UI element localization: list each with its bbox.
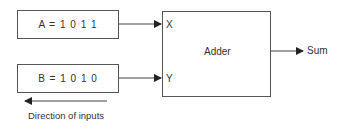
input-b-label: B = 1 0 1 0 bbox=[38, 73, 98, 84]
sum-label: Sum bbox=[307, 45, 328, 56]
port-y-label: Y bbox=[166, 73, 173, 84]
input-a-label: A = 1 0 1 1 bbox=[38, 19, 97, 30]
adder-label: Adder bbox=[204, 46, 231, 57]
input-a-box: A = 1 0 1 1 bbox=[17, 10, 119, 39]
direction-caption: Direction of inputs bbox=[28, 110, 104, 121]
input-b-box: B = 1 0 1 0 bbox=[17, 64, 119, 93]
port-x-label: X bbox=[166, 19, 173, 30]
adder-block: X Y Adder bbox=[162, 11, 271, 97]
